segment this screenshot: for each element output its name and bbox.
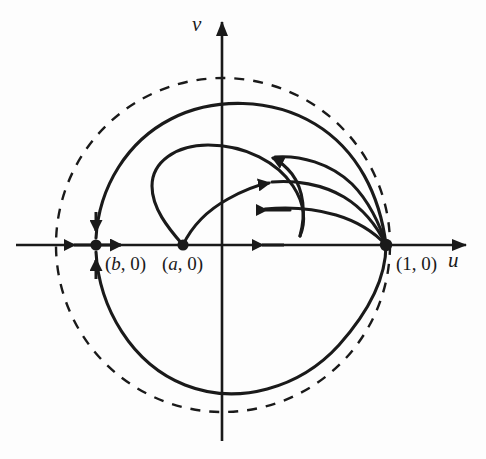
point-a-label: (a, 0) [162,253,203,275]
fixed-point-a-dot [177,239,188,250]
phase-portrait-figure: v u (b, 0) (a, 0) (1, 0) [0,0,486,459]
interior-trajectory-3 [265,208,386,245]
fixed-point-one-dot [380,239,392,251]
point-b-label: (b, 0) [105,253,146,275]
point-one-label: (1, 0) [396,253,437,275]
v-axis-label: v [192,12,201,37]
phase-portrait-canvas [0,0,486,459]
axis-group [16,22,466,441]
interior-trajectory-2-arrowseg [183,183,269,245]
u-axis-label: u [448,248,459,273]
inner-loop-trajectory [152,145,304,245]
fixed-point-b-dot [90,239,101,250]
